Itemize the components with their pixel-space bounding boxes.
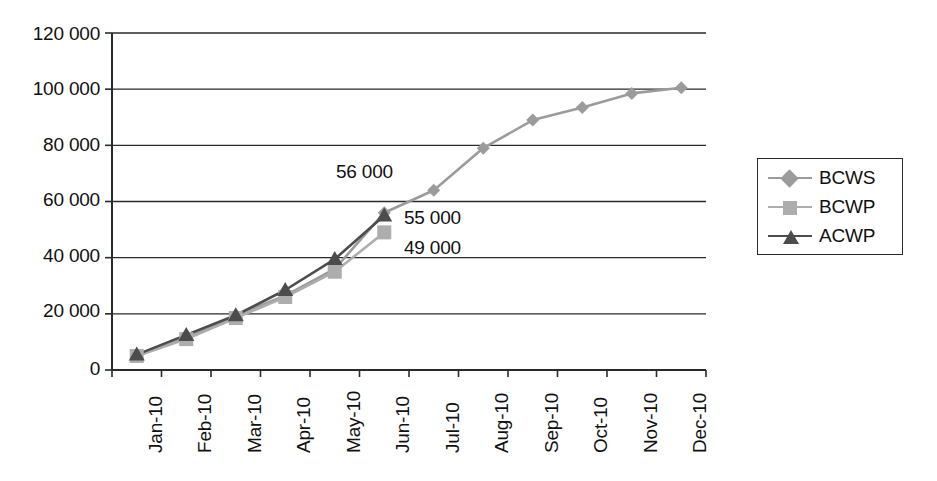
legend-key-bcwp bbox=[768, 198, 812, 216]
x-axis-tick-label: Oct-10 bbox=[590, 397, 612, 453]
chart-container: 120 000 100 000 80 000 60 000 40 000 20 … bbox=[0, 0, 937, 481]
legend-label-acwp: ACWP bbox=[819, 226, 875, 245]
data-annotation-acwp: 55 000 bbox=[404, 207, 461, 229]
data-annotation-bcws: 56 000 bbox=[336, 161, 393, 183]
triangle-marker-icon bbox=[783, 230, 799, 244]
legend-label-bcws: BCWS bbox=[819, 168, 875, 187]
x-axis-ticks bbox=[112, 370, 706, 377]
x-axis-tick-label: Nov-10 bbox=[640, 393, 662, 453]
x-axis-tick-label: Jun-10 bbox=[392, 396, 414, 453]
data-annotation-bcwp: 49 000 bbox=[404, 237, 461, 259]
legend: BCWS BCWP ACWP bbox=[757, 158, 903, 255]
x-axis-tick-label: Sep-10 bbox=[541, 393, 563, 453]
diamond-marker-icon bbox=[780, 169, 798, 187]
x-axis-tick-label: Aug-10 bbox=[491, 393, 513, 453]
x-axis-tick-label: Apr-10 bbox=[293, 397, 315, 453]
x-axis-tick-label: Mar-10 bbox=[244, 394, 266, 453]
legend-item-acwp: ACWP bbox=[768, 221, 902, 250]
x-axis-tick-label: May-10 bbox=[343, 391, 365, 453]
x-axis-tick-label: Feb-10 bbox=[194, 394, 216, 453]
legend-item-bcws: BCWS bbox=[768, 163, 902, 192]
x-axis-tick-label: Jul-10 bbox=[442, 402, 464, 453]
legend-key-bcws bbox=[768, 169, 812, 187]
legend-label-bcwp: BCWP bbox=[819, 197, 875, 216]
square-marker-icon bbox=[783, 201, 797, 215]
gridlines bbox=[105, 33, 706, 370]
legend-item-bcwp: BCWP bbox=[768, 192, 902, 221]
legend-key-acwp bbox=[768, 227, 812, 245]
x-axis-tick-label: Jan-10 bbox=[145, 396, 167, 453]
x-axis-tick-label: Dec-10 bbox=[689, 393, 711, 453]
